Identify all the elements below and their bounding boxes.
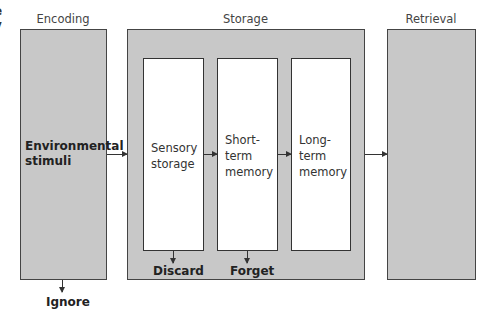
sensory-to-short-term-arrow bbox=[204, 154, 217, 155]
encoding-to-storage-arrow bbox=[107, 154, 127, 155]
retrieval-stage-label: Retrieval bbox=[387, 12, 475, 26]
short-term-to-long-term-arrow bbox=[278, 154, 291, 155]
long-term-memory-label: Long- term memory bbox=[299, 132, 347, 180]
encoding-stage-label: Encoding bbox=[20, 12, 106, 26]
forget-arrow bbox=[247, 251, 248, 263]
storage-to-retrieval-arrow bbox=[365, 154, 387, 155]
discard-label: Discard bbox=[153, 264, 204, 279]
clipped-text-fragment: e y bbox=[0, 4, 2, 32]
retrieval-box bbox=[387, 29, 476, 280]
storage-stage-label: Storage bbox=[127, 12, 364, 26]
forget-label: Forget bbox=[230, 264, 274, 279]
sensory-storage-label: Sensory storage bbox=[151, 140, 197, 172]
ignore-label: Ignore bbox=[46, 295, 90, 310]
discard-arrow bbox=[173, 251, 174, 263]
ignore-arrow bbox=[62, 280, 63, 292]
short-term-memory-label: Short- term memory bbox=[225, 132, 273, 180]
